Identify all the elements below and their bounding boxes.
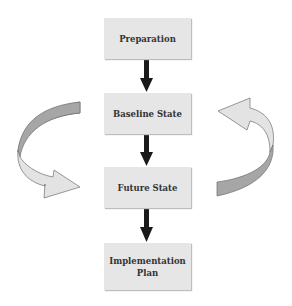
step-preparation: Preparation	[104, 18, 191, 59]
left-cycle-arrow	[18, 102, 80, 198]
step-baseline-state: Baseline State	[104, 93, 191, 134]
step-label: Future State	[118, 182, 178, 194]
step-label: Implementation Plan	[109, 255, 186, 279]
right-cycle-arrow	[217, 98, 274, 196]
step-future-state: Future State	[104, 167, 191, 208]
arrow-preparation-to-baseline	[140, 59, 153, 92]
step-label: Baseline State	[113, 108, 182, 120]
step-implementation-plan: Implementation Plan	[104, 243, 191, 290]
arrow-baseline-to-future	[140, 134, 153, 166]
arrow-future-to-implementation	[140, 208, 153, 242]
step-label: Preparation	[119, 33, 176, 45]
